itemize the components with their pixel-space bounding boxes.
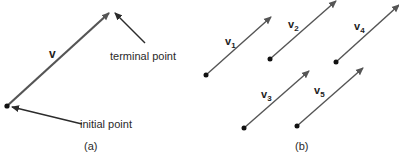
vector-v-label: v <box>49 47 56 61</box>
v1-label: v1 <box>225 35 236 50</box>
v3-initial-dot <box>242 126 247 131</box>
panel-a: v terminal point initial point (a) <box>4 13 176 152</box>
v5-initial-dot <box>295 124 300 129</box>
terminal-point-pointer <box>115 13 145 43</box>
v3-label: v3 <box>261 88 272 103</box>
vector-diagram: v terminal point initial point (a) v1 v2 <box>0 0 399 154</box>
caption-b: (b) <box>295 140 308 152</box>
vector-v1: v1 <box>204 17 272 78</box>
v5-label: v5 <box>314 84 325 99</box>
vector-v5: v5 <box>295 68 364 129</box>
v1-initial-dot <box>204 73 209 78</box>
vector-v <box>7 13 109 106</box>
terminal-point-label: terminal point <box>110 50 176 62</box>
v4-label: v4 <box>354 20 365 35</box>
panel-b: v1 v2 v4 v3 <box>204 1 399 152</box>
initial-point-pointer <box>12 107 82 124</box>
v2-label: v2 <box>288 18 299 33</box>
v4-initial-dot <box>334 60 339 65</box>
vector-v2: v2 <box>268 1 337 62</box>
v2-initial-dot <box>268 57 273 62</box>
initial-point-label: initial point <box>80 118 132 130</box>
vector-v3: v3 <box>242 71 310 131</box>
initial-point-dot <box>4 103 9 108</box>
vector-v4: v4 <box>334 5 399 65</box>
caption-a: (a) <box>84 140 97 152</box>
